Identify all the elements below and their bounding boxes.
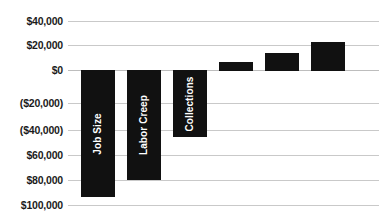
y-tick-label: ($40,000)	[20, 124, 63, 136]
bar-label: Collections	[185, 76, 195, 131]
y-tick-label: $20,000	[26, 39, 63, 51]
y-tick-label: $40,000	[26, 15, 63, 27]
bar-label: Labor Creep	[139, 95, 149, 155]
y-tick-label: $60,000	[26, 149, 63, 161]
y-tick-label: $100,000	[21, 199, 63, 211]
bar-4	[219, 62, 253, 71]
bar-5	[265, 53, 299, 71]
bar-label: Job Size	[93, 113, 103, 154]
bar-6	[311, 42, 345, 71]
y-axis: $40,000 $20,000 $0 ($20,000) ($40,000) $…	[0, 0, 68, 219]
bar-collections: Collections	[173, 70, 207, 137]
y-tick-label: ($20,000)	[20, 97, 63, 109]
bar-labor-creep: Labor Creep	[127, 70, 161, 180]
bar-job-size: Job Size	[81, 70, 115, 197]
plot-area: Job Size Labor Creep Collections	[68, 0, 386, 219]
y-tick-label: $80,000	[26, 174, 63, 186]
waterfall-chart: $40,000 $20,000 $0 ($20,000) ($40,000) $…	[0, 0, 386, 219]
y-tick-label: $0	[52, 64, 63, 76]
bars: Job Size Labor Creep Collections	[68, 0, 386, 219]
